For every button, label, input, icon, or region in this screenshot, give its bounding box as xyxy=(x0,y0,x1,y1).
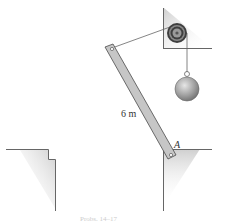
weight-ball-icon xyxy=(175,72,199,102)
ground-left xyxy=(6,150,56,212)
figure-caption: Probs. 14–17 xyxy=(80,215,117,221)
diagram-canvas: 6 m A Probs. 14–17 xyxy=(0,0,228,221)
ground-left-shading xyxy=(20,150,55,208)
cable-to-bar xyxy=(112,27,170,48)
pin-a-icon xyxy=(169,153,172,156)
ground-right xyxy=(164,149,213,211)
point-a-label: A xyxy=(173,139,181,150)
rod xyxy=(105,44,176,159)
pulley-icon xyxy=(167,23,187,43)
length-label: 6 m xyxy=(121,108,137,119)
rod-body xyxy=(105,44,176,159)
rod-top-pin-icon xyxy=(110,47,113,50)
